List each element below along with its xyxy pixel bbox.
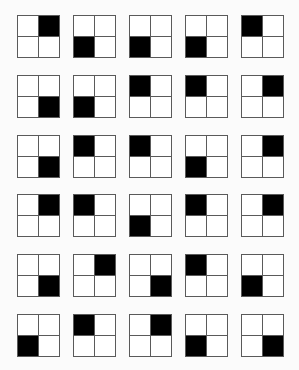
quadrant-box <box>241 194 284 237</box>
horizontal-divider <box>242 36 283 38</box>
filled-quadrant <box>263 76 284 97</box>
quadrant-box <box>73 75 116 118</box>
filled-quadrant <box>263 195 284 216</box>
filled-quadrant <box>151 315 172 336</box>
filled-quadrant <box>74 37 95 58</box>
horizontal-divider <box>74 96 115 98</box>
quadrant-box <box>17 15 60 58</box>
quadrant-box <box>17 75 60 118</box>
filled-quadrant <box>263 336 284 357</box>
filled-quadrant <box>95 255 116 276</box>
filled-quadrant <box>186 336 207 357</box>
quadrant-box <box>73 314 116 357</box>
quadrant-box <box>185 135 228 178</box>
filled-quadrant <box>242 276 263 297</box>
horizontal-divider <box>74 156 115 158</box>
quadrant-box <box>129 15 172 58</box>
horizontal-divider <box>242 275 283 277</box>
horizontal-divider <box>130 36 171 38</box>
filled-quadrant <box>130 136 151 157</box>
filled-quadrant <box>130 37 151 58</box>
filled-quadrant <box>186 157 207 178</box>
horizontal-divider <box>18 215 59 217</box>
filled-quadrant <box>39 16 60 37</box>
quadrant-box <box>73 254 116 297</box>
horizontal-divider <box>74 36 115 38</box>
filled-quadrant <box>151 276 172 297</box>
filled-quadrant <box>74 97 95 118</box>
quadrant-box <box>241 15 284 58</box>
quadrant-box <box>241 135 284 178</box>
quadrant-box <box>73 194 116 237</box>
filled-quadrant <box>186 195 207 216</box>
filled-quadrant <box>186 37 207 58</box>
filled-quadrant <box>39 157 60 178</box>
quadrant-box <box>17 135 60 178</box>
horizontal-divider <box>18 96 59 98</box>
horizontal-divider <box>130 96 171 98</box>
quadrant-box <box>17 194 60 237</box>
horizontal-divider <box>18 36 59 38</box>
horizontal-divider <box>130 335 171 337</box>
horizontal-divider <box>186 215 227 217</box>
filled-quadrant <box>39 97 60 118</box>
quadrant-box <box>185 314 228 357</box>
quadrant-box <box>17 254 60 297</box>
quadrant-box <box>73 15 116 58</box>
horizontal-divider <box>74 335 115 337</box>
horizontal-divider <box>242 335 283 337</box>
quadrant-box <box>185 194 228 237</box>
quadrant-box <box>17 314 60 357</box>
horizontal-divider <box>242 215 283 217</box>
horizontal-divider <box>242 156 283 158</box>
quadrant-box <box>241 75 284 118</box>
quadrant-box <box>185 75 228 118</box>
filled-quadrant <box>263 136 284 157</box>
quadrant-grid <box>0 0 299 370</box>
filled-quadrant <box>242 16 263 37</box>
horizontal-divider <box>186 156 227 158</box>
quadrant-box <box>129 75 172 118</box>
quadrant-box <box>185 15 228 58</box>
horizontal-divider <box>18 335 59 337</box>
horizontal-divider <box>18 156 59 158</box>
filled-quadrant <box>74 315 95 336</box>
filled-quadrant <box>18 336 39 357</box>
filled-quadrant <box>186 255 207 276</box>
filled-quadrant <box>74 136 95 157</box>
horizontal-divider <box>74 275 115 277</box>
quadrant-box <box>73 135 116 178</box>
filled-quadrant <box>186 76 207 97</box>
horizontal-divider <box>186 36 227 38</box>
horizontal-divider <box>186 335 227 337</box>
quadrant-box <box>129 135 172 178</box>
horizontal-divider <box>18 275 59 277</box>
quadrant-box <box>129 314 172 357</box>
horizontal-divider <box>130 275 171 277</box>
horizontal-divider <box>130 215 171 217</box>
filled-quadrant <box>39 195 60 216</box>
filled-quadrant <box>74 195 95 216</box>
horizontal-divider <box>74 215 115 217</box>
filled-quadrant <box>130 216 151 237</box>
quadrant-box <box>185 254 228 297</box>
filled-quadrant <box>130 76 151 97</box>
quadrant-box <box>129 194 172 237</box>
quadrant-box <box>241 254 284 297</box>
quadrant-box <box>241 314 284 357</box>
quadrant-box <box>129 254 172 297</box>
horizontal-divider <box>186 275 227 277</box>
horizontal-divider <box>130 156 171 158</box>
horizontal-divider <box>242 96 283 98</box>
horizontal-divider <box>186 96 227 98</box>
filled-quadrant <box>39 276 60 297</box>
